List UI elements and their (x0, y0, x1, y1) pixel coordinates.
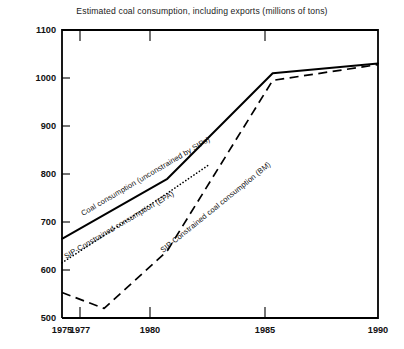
series-inline-labels: Coal consumption (unconstrained by SIPs)… (62, 135, 272, 261)
y-axis-label-600: 600 (41, 265, 56, 275)
y-axis-label-900: 900 (41, 121, 56, 131)
y-axis-labels: 1100 1000 900 800 700 600 500 (36, 25, 56, 323)
y-axis-label-1100: 1100 (36, 25, 56, 35)
y-axis-label-500: 500 (41, 313, 56, 323)
x-axis-label-1990: 1990 (368, 325, 388, 335)
x-axis-label-1980: 1980 (140, 325, 160, 335)
chart-plot-area: 1100 1000 900 800 700 600 500 1975 1977 … (0, 0, 404, 349)
x-axis-label-1985: 1985 (255, 325, 275, 335)
y-axis-ticks (62, 30, 70, 318)
series-line-coal-consumption-unconstrained (62, 64, 378, 239)
chart-figure: Estimated coal consumption, including ex… (0, 0, 404, 349)
series-label-sip-constrained-epa: SIP-Constrained consumption (EPA) (62, 189, 175, 261)
y-axis-label-700: 700 (41, 217, 56, 227)
x-axis-label-1977: 1977 (70, 325, 90, 335)
y-axis-label-1000: 1000 (36, 73, 56, 83)
series-line-sip-constrained-bm (62, 65, 378, 309)
y-axis-label-800: 800 (41, 169, 56, 179)
x-axis-labels: 1975 1977 1980 1985 1990 (52, 325, 388, 335)
plot-frame (62, 30, 378, 318)
data-series-group (62, 64, 378, 309)
